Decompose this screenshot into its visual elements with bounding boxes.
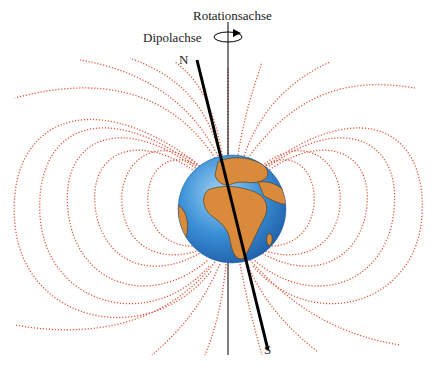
north-pole-label: N (179, 52, 188, 68)
dipole-axis-label: Dipolachse (143, 30, 201, 46)
rotation-axis-label: Rotationsachse (193, 8, 272, 24)
geomagnetic-dipole-diagram: Rotationsachse Dipolachse N S (0, 0, 435, 376)
diagram-graphic (0, 0, 435, 376)
south-pole-label: S (264, 342, 271, 358)
